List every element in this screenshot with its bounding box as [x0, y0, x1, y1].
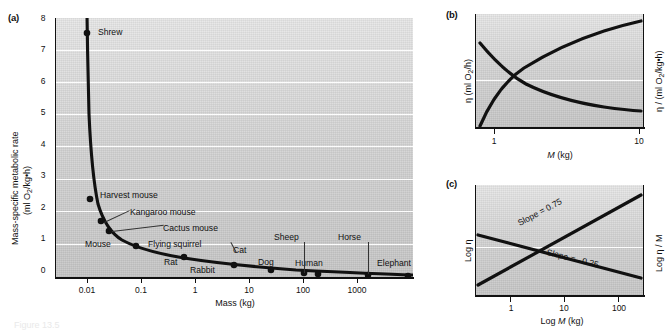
panel-c-xtick-100: 100 — [605, 303, 633, 313]
panel-a-xtick-mark-1 — [195, 278, 196, 283]
panel-c-yaxis-left — [475, 185, 476, 296]
panel-c-xtick-mark-10 — [564, 297, 565, 302]
panel-a-xtick-1: 1 — [182, 285, 208, 295]
panel-b-xtick-mark-1 — [494, 129, 495, 134]
panel-c-xtick-10: 10 — [552, 303, 576, 313]
panel-c-xtick-mark-1 — [510, 297, 511, 302]
panel-a-xtick-1000: 1000 — [338, 285, 376, 295]
panel-a-point-shrew — [84, 30, 91, 37]
panel-a-label-sheep: Sheep — [274, 232, 299, 242]
panel-a-yaxis — [55, 18, 56, 278]
panel-a-ytick-2: 2 — [36, 202, 50, 212]
panel-a-label-horse: Horse — [338, 232, 361, 242]
panel-a-point-cat — [231, 262, 238, 269]
panel-c-xtick-1: 1 — [500, 303, 522, 313]
panel-a-point-rat — [181, 254, 188, 261]
panel-c-xlabel: Log M (kg) — [512, 316, 612, 326]
panel-a-ytick-1: 1 — [36, 233, 50, 243]
panel-a-ytick-3: 3 — [36, 170, 50, 180]
panel-a-label-elephant: Elephant — [377, 258, 411, 268]
panel-a-leader-sheep — [304, 242, 305, 273]
panel-b-ylabel-left: η (ml O2/h) — [463, 59, 474, 103]
panel-a-point-harvest-mouse — [87, 196, 94, 203]
panel-a-label-rat: Rat — [164, 257, 177, 267]
panel-c-xtick-mark-100 — [618, 297, 619, 302]
panel-a-xtick-0.1: 0.1 — [124, 285, 158, 295]
panel-c-letter: (c) — [446, 178, 457, 189]
figure-caption: Figure 13.5 — [14, 320, 60, 330]
panel-a-ytick-7: 7 — [36, 44, 50, 54]
figure-container: (a) Mass-specific metabolic rate (ml O2/… — [0, 0, 667, 333]
panel-a-label-harvest-mouse: Harvest mouse — [100, 190, 158, 200]
panel-a-xtick-mark-100 — [303, 278, 304, 283]
panel-c-ylabel-right: Log η / M — [654, 234, 664, 272]
panel-a-xtick-100: 100 — [286, 285, 320, 295]
panel-a-xlabel: Mass (kg) — [175, 298, 295, 308]
panel-b-yaxis-right — [643, 14, 644, 128]
panel-c-ylabel-left: Log η — [463, 239, 473, 262]
panel-a-trend-curve — [87, 18, 413, 275]
panel-a-ytick-0: 0 — [36, 265, 50, 275]
panel-a-label-flying-squirrel: Flying squirrel — [148, 239, 202, 249]
panel-b-plot-area — [476, 14, 643, 128]
panel-a-label-kangaroo-mouse: Kangaroo mouse — [130, 207, 195, 217]
panel-a-ytick-4: 4 — [36, 139, 50, 149]
panel-b-xlabel: M (kg) — [515, 150, 605, 160]
panel-a-label-shrew: Shrew — [98, 27, 122, 37]
panel-b-ylabel-right: η / (ml O2/kg•h) — [654, 50, 665, 112]
panel-a-point-flying-squirrel — [133, 243, 140, 250]
panel-b-letter: (b) — [446, 9, 458, 20]
panel-a-ylabel-line2: (ml O2/kg•h) — [22, 166, 33, 215]
panel-a-label-human: Human — [295, 258, 323, 268]
panel-a-xtick-mark-0.1 — [141, 278, 142, 283]
panel-b-xtick-1: 1 — [483, 136, 505, 146]
panel-b-curves-svg — [476, 14, 643, 128]
panel-b-curve-eta-per-mass — [480, 43, 641, 111]
panel-b-xaxis — [475, 127, 645, 129]
panel-b-yaxis-left — [475, 14, 476, 128]
panel-a-point-dog — [268, 267, 275, 274]
panel-c-yaxis-right — [643, 185, 644, 296]
panel-a-xtick-0.01: 0.01 — [67, 285, 107, 295]
panel-c-plot-area: Slope = 0.75 Slope = –0.25 — [476, 185, 643, 296]
panel-b-xtick-10: 10 — [627, 136, 651, 146]
panel-b-xtick-mark-10 — [639, 129, 640, 134]
panel-a-ytick-6: 6 — [36, 76, 50, 86]
panel-a-label-dog: Dog — [258, 257, 274, 267]
panel-a-leader-horse — [368, 242, 369, 274]
panel-a-ytick-8: 8 — [36, 13, 50, 23]
panel-a-label-mouse: Mouse — [85, 239, 111, 249]
panel-a-xtick-mark-10 — [249, 278, 250, 283]
panel-a-ylabel-line1: Mass-specific metabolic rate — [10, 131, 20, 245]
panel-a-xtick-mark-0.01 — [87, 278, 88, 283]
panel-a-xaxis — [55, 277, 414, 279]
panel-a-letter: (a) — [8, 12, 19, 23]
panel-a-xtick-mark-1000 — [357, 278, 358, 283]
panel-c-xaxis — [475, 295, 645, 297]
panel-a-label-rabbit: Rabbit — [190, 265, 215, 275]
panel-a-label-cactus-mouse: Cactus mouse — [163, 223, 218, 233]
panel-a-xtick-10: 10 — [234, 285, 264, 295]
panel-a-ytick-5: 5 — [36, 107, 50, 117]
